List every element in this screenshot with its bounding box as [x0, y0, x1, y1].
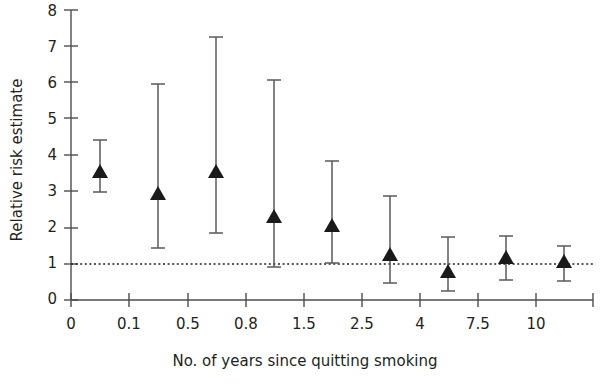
data-point-0[interactable]	[92, 140, 108, 192]
x-axis-title: No. of years since quitting smoking	[172, 352, 437, 370]
x-tick-label-5: 2.5	[350, 315, 374, 333]
data-point-4[interactable]	[324, 161, 340, 263]
triangle-marker	[324, 218, 340, 232]
triangle-marker	[498, 250, 514, 264]
x-tick-label-4: 1.5	[292, 315, 316, 333]
y-tick-label-4: 4	[47, 146, 57, 164]
data-point-5[interactable]	[382, 196, 398, 283]
triangle-marker	[556, 254, 572, 268]
x-tick-label-8: 10	[526, 315, 545, 333]
y-tick-label-7: 7	[47, 38, 57, 56]
x-tick-label-0: 0	[66, 315, 76, 333]
x-tick-label-7: 7.5	[466, 315, 490, 333]
data-point-1[interactable]	[150, 84, 166, 248]
y-tick-label-8: 8	[47, 2, 57, 20]
y-tick-label-3: 3	[47, 182, 57, 200]
y-tick-label-6: 6	[47, 74, 57, 92]
x-tick-label-2: 0.5	[176, 315, 200, 333]
chart-figure: Relative risk estimate 8 7 6 5 4 3 2 1 0	[0, 0, 605, 384]
x-tick-label-1: 0.1	[117, 315, 141, 333]
y-tick-label-2: 2	[47, 218, 57, 236]
x-axis-tick-labels: 0 0.1 0.5 0.8 1.5 2.5 4 7.5 10	[66, 315, 545, 333]
data-point-3[interactable]	[266, 80, 282, 267]
y-tick-label-5: 5	[47, 110, 57, 128]
x-tick-label-6: 4	[415, 315, 425, 333]
triangle-marker	[266, 209, 282, 223]
triangle-marker	[92, 164, 108, 178]
triangle-marker	[208, 164, 224, 178]
y-tick-label-0: 0	[47, 290, 57, 308]
x-tick-label-3: 0.8	[234, 315, 258, 333]
triangle-marker	[150, 186, 166, 200]
y-axis-title: Relative risk estimate	[8, 79, 26, 242]
relative-risk-scatter-chart: Relative risk estimate 8 7 6 5 4 3 2 1 0	[0, 0, 605, 384]
triangle-marker	[440, 264, 456, 278]
data-point-2[interactable]	[208, 37, 224, 233]
y-axis-tick-labels: 8 7 6 5 4 3 2 1 0	[47, 2, 57, 308]
y-tick-label-1: 1	[47, 254, 57, 272]
data-point-7[interactable]	[498, 236, 514, 280]
triangle-marker	[382, 247, 398, 261]
